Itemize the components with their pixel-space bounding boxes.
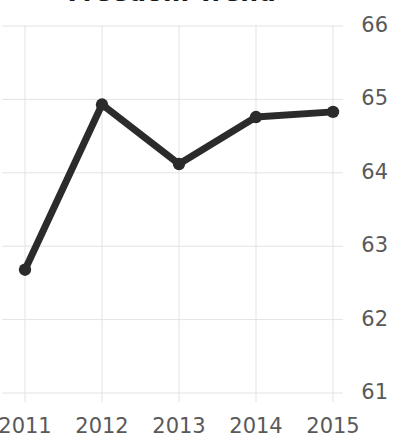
y-axis-tick-label: 64 (348, 162, 388, 183)
y-axis-tick-label: 65 (348, 88, 388, 109)
x-axis-tick-label: 2014 (216, 414, 296, 438)
data-point-marker[interactable] (96, 98, 108, 110)
x-axis: 20112012201320142015 (0, 414, 360, 445)
x-axis-tick-label: 2012 (62, 414, 142, 438)
line-chart: Freedom Trend 666564636261 2011201220132… (0, 0, 402, 445)
y-axis: 666564636261 (352, 0, 402, 420)
data-point-marker[interactable] (19, 263, 31, 275)
y-axis-tick-label: 63 (348, 235, 388, 256)
plot-canvas (0, 0, 402, 402)
x-axis-tick-label: 2011 (0, 414, 65, 438)
plot-area (0, 0, 402, 402)
data-point-marker[interactable] (250, 111, 262, 123)
x-axis-tick-label: 2015 (293, 414, 373, 438)
data-point-marker[interactable] (173, 158, 185, 170)
vertical-gridlines (25, 25, 333, 402)
x-axis-tick-label: 2013 (139, 414, 219, 438)
data-point-marker[interactable] (327, 106, 339, 118)
y-axis-tick-label: 61 (348, 382, 388, 403)
y-axis-tick-label: 62 (348, 309, 388, 330)
y-axis-tick-label: 66 (348, 15, 388, 36)
